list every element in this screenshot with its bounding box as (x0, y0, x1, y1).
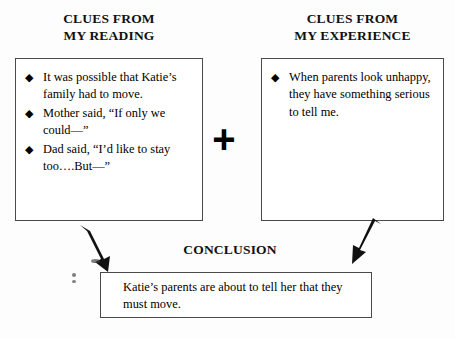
list-item-text: It was possible that Katie’s family had … (43, 70, 177, 101)
arrow-experience-to-conclusion (352, 218, 381, 264)
reading-clue-list: ◆ It was possible that Katie’s family ha… (16, 59, 202, 175)
diamond-bullet-icon: ◆ (25, 141, 33, 158)
scan-speck (72, 280, 76, 283)
list-item: ◆ It was possible that Katie’s family ha… (23, 69, 194, 104)
clues-from-my-experience-title: CLUES FROM MY EXPERIENCE (261, 10, 444, 44)
list-item: ◆ When parents look unhappy, they have s… (269, 69, 435, 121)
clues-from-my-reading-title: CLUES FROM MY READING (15, 10, 203, 44)
plus-operator-icon: + (204, 119, 244, 159)
list-item: ◆ Mother said, “If only we could—” (23, 105, 194, 140)
conclusion-text: Katie’s parents are about to tell her th… (101, 273, 371, 314)
graphic-organizer: CLUES FROM MY READING CLUES FROM MY EXPE… (0, 0, 455, 339)
diamond-bullet-icon: ◆ (271, 69, 279, 86)
list-item: ◆ Dad said, “I’d like to stay too….But—” (23, 141, 194, 176)
conclusion-label: CONCLUSION (160, 241, 300, 258)
diamond-bullet-icon: ◆ (25, 105, 33, 122)
diamond-bullet-icon: ◆ (25, 69, 33, 86)
list-item-text: Mother said, “If only we could—” (43, 106, 165, 137)
list-item-text: Dad said, “I’d like to stay too….But—” (43, 142, 170, 173)
experience-clue-list: ◆ When parents look unhappy, they have s… (262, 59, 443, 121)
clues-from-my-experience-box: ◆ When parents look unhappy, they have s… (261, 58, 444, 221)
scan-speck (72, 273, 76, 277)
arrow-reading-to-conclusion (80, 225, 110, 272)
clues-from-my-reading-box: ◆ It was possible that Katie’s family ha… (15, 58, 203, 221)
list-item-text: When parents look unhappy, they have som… (289, 70, 431, 119)
scan-speck (91, 259, 100, 263)
conclusion-box: Katie’s parents are about to tell her th… (100, 272, 372, 318)
